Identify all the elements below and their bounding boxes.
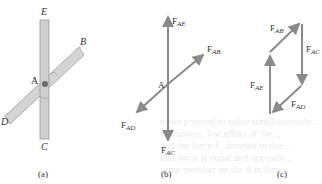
caption-b: (b): [161, 169, 172, 179]
label-f-ae-c: FAE: [250, 80, 264, 92]
label-f-ab: FAB: [207, 44, 221, 56]
label-f-ae: FAE: [172, 16, 186, 28]
joint-a-pin: [42, 81, 48, 87]
svg-text:unknowns. The effect of the...: unknowns. The effect of the...: [160, 128, 280, 139]
figure-canvas: st we proceed to solve simultaneously...…: [0, 0, 322, 184]
label-d: D: [0, 116, 9, 127]
label-a: A: [31, 75, 39, 86]
svg-text:st we proceed to solve simulta: st we proceed to solve simultaneously...: [160, 116, 319, 127]
label-f-ac-c: FAC: [306, 44, 320, 56]
caption-c: (c): [277, 169, 287, 179]
label-a-joint: A: [158, 80, 165, 90]
label-f-ad-c: FAD: [291, 99, 305, 111]
panel-a: E B A D C (a): [0, 6, 86, 179]
caption-a: (a): [38, 169, 48, 179]
label-c: C: [41, 141, 48, 152]
svg-text:same member on the A is the...: same member on the A is the...: [160, 164, 283, 175]
svg-text:and the force F, directed in t: and the force F, directed in the...: [160, 140, 289, 151]
svg-text:that force is equal and opposi: that force is equal and opposite...: [160, 152, 292, 163]
label-f-ab-c: FAB: [270, 23, 284, 35]
label-b: B: [80, 36, 86, 47]
rod-ec: [40, 20, 49, 139]
label-f-ad: FAD: [121, 120, 135, 132]
label-e: E: [40, 6, 47, 17]
arrow-f-ab: [168, 55, 203, 84]
background-bleed-text: st we proceed to solve simultaneously...…: [160, 116, 319, 175]
